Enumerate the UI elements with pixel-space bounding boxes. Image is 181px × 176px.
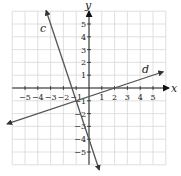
x-tick-label: 1 [99, 93, 104, 102]
axes [12, 11, 169, 165]
x-tick-label: −2 [58, 93, 70, 102]
y-tick-label: 4 [81, 33, 86, 42]
y-tick-label: 5 [81, 20, 86, 29]
line-d-label: d [142, 63, 149, 76]
x-tick-label: 3 [125, 93, 130, 102]
y-axis-label: y [84, 0, 92, 12]
line-c-label: c [40, 22, 46, 35]
x-tick-label: 4 [138, 93, 143, 102]
x-tick-label: 5 [150, 93, 155, 102]
y-tick-label: 1 [81, 71, 86, 80]
x-tick-label: −4 [32, 93, 44, 102]
y-tick-label: 3 [81, 46, 86, 55]
x-axis-label: x [171, 82, 178, 95]
x-tick-label: −5 [19, 93, 31, 102]
coordinate-graph: −5−4−3−2−11234554321−1−2−3−4−5 x y c d [0, 0, 181, 176]
x-tick-label: 2 [112, 93, 117, 102]
y-tick-label: 2 [81, 58, 86, 67]
y-tick-label: −5 [74, 148, 86, 157]
line-c [46, 11, 99, 170]
x-tick-label: −3 [45, 93, 57, 102]
y-tick-label: −4 [74, 135, 86, 144]
